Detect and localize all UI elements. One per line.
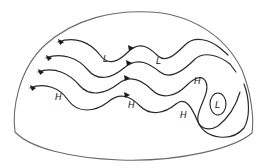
high-pressure-label: H <box>180 110 187 120</box>
hemisphere-diagram: L L H H H H L <box>0 0 260 168</box>
high-pressure-label: H <box>194 76 201 86</box>
flow-line-2 <box>46 55 236 78</box>
low-pressure-label: L <box>103 54 108 64</box>
flow-line-1 <box>58 39 228 61</box>
diagram-canvas: L L H H H H L <box>0 0 260 168</box>
flow-line-3 <box>38 70 240 129</box>
flow-line-4 <box>30 84 249 137</box>
high-pressure-label: H <box>128 100 135 110</box>
high-pressure-label: H <box>55 92 62 102</box>
cutoff-low-label: L <box>215 100 220 110</box>
arrowhead-icon <box>124 75 130 81</box>
hemisphere-outline <box>14 12 252 160</box>
low-pressure-label: L <box>156 56 161 66</box>
